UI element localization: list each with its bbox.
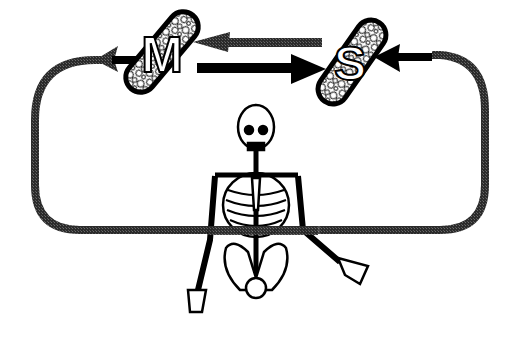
skeleton-icon bbox=[188, 105, 368, 312]
arrow-m-to-s-icon bbox=[197, 54, 326, 84]
arrow-s-to-m-icon bbox=[193, 32, 322, 52]
m-label: M bbox=[141, 27, 183, 83]
s-label: S bbox=[334, 37, 366, 90]
loop-through-torso bbox=[208, 226, 318, 235]
motor-sensory-loop-diagram: M S bbox=[0, 0, 513, 342]
